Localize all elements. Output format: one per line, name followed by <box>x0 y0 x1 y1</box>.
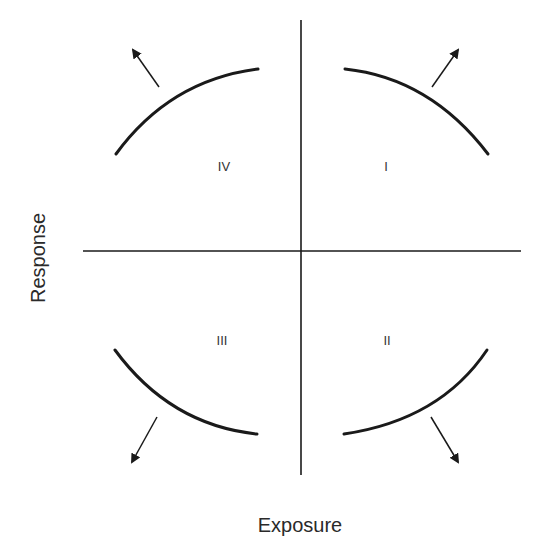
quadrant-ii: II <box>344 333 487 462</box>
y-axis-title: Response <box>27 213 49 303</box>
quadrant-iii-curve <box>115 350 257 434</box>
quadrant-i-curve <box>345 69 488 154</box>
quadrant-i-label: I <box>384 159 388 174</box>
arrow-down-left-icon <box>132 417 157 462</box>
quadrant-iii-label: III <box>217 333 228 348</box>
quadrant-iii: III <box>115 333 257 462</box>
arrow-up-right-icon <box>432 50 458 87</box>
quadrant-iv-curve <box>116 69 258 154</box>
x-axis-title: Exposure <box>258 514 343 536</box>
quadrant-i: I <box>345 50 488 174</box>
quadrant-iv: IV <box>116 50 258 174</box>
arrow-down-right-icon <box>431 417 458 462</box>
arrow-up-left-icon <box>133 50 159 87</box>
quadrant-ii-label: II <box>383 333 390 348</box>
quadrant-iv-label: IV <box>218 159 231 174</box>
quadrant-diagram: IV I III II Exposure Response <box>0 0 543 556</box>
quadrant-ii-curve <box>344 350 487 434</box>
